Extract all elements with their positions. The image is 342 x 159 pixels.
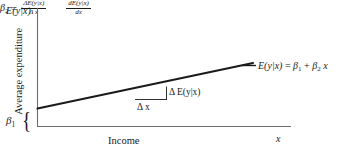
equation-variable-x: x bbox=[323, 60, 327, 71]
equation-beta1-sub: 1 bbox=[298, 65, 302, 73]
x-axis-title: Income bbox=[108, 136, 140, 147]
equation-plus: + bbox=[304, 60, 310, 71]
x-axis-variable-label: x bbox=[276, 134, 280, 144]
equation-beta2-sub: 2 bbox=[317, 65, 321, 73]
beta1-intercept-label: β1 bbox=[6, 115, 15, 129]
equation-equals: = bbox=[285, 60, 291, 71]
regression-figure: E(y|x) Average expenditure Income x β1 {… bbox=[0, 0, 342, 159]
y-axis-title: Average expenditure bbox=[14, 23, 25, 119]
delta-x-label: Δ x bbox=[137, 103, 150, 113]
equation-lhs: E(y|x) bbox=[258, 60, 282, 71]
beta1-brace-icon: { bbox=[22, 108, 31, 132]
beta1-subscript: 1 bbox=[11, 120, 15, 129]
y-axis-top-label: E(y|x) bbox=[6, 6, 31, 16]
line-equation-label: E(y|x) = β1 + β2 x bbox=[258, 61, 328, 73]
delta-y-label: Δ E(y|x) bbox=[169, 88, 201, 98]
figure-canvas bbox=[0, 0, 342, 159]
